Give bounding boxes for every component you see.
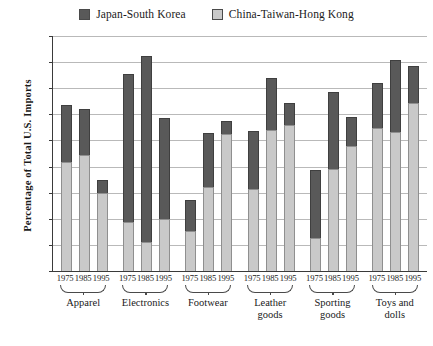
bar-footwear-1975 (185, 200, 196, 271)
segment-japan-south-korea (61, 105, 72, 162)
bar-leather-goods-1975 (248, 131, 259, 271)
segment-japan-south-korea (266, 78, 277, 130)
x-axis-year-labels: 197519851995 (239, 273, 301, 283)
segment-japan-south-korea (248, 131, 259, 189)
x-axis-category-label: Electronics (114, 297, 176, 309)
segment-china-taiwan-hong-kong (141, 242, 152, 272)
segment-china-taiwan-hong-kong (97, 193, 108, 271)
chart-legend: Japan-South Korea China-Taiwan-Hong Kong (0, 6, 433, 22)
bar-apparel-1985 (79, 109, 90, 271)
segment-japan-south-korea (185, 200, 196, 231)
category-brace-icon (185, 285, 231, 293)
x-axis-group-apparel: 197519851995Apparel (52, 273, 114, 343)
bar-toys-and-dolls-1975 (372, 83, 383, 271)
bar-electronics-1995 (159, 118, 170, 271)
segment-japan-south-korea (390, 60, 401, 133)
bar-group-sporting-goods (302, 36, 364, 271)
bar-sporting-goods-1985 (328, 92, 339, 271)
bar-group-electronics (115, 36, 177, 271)
bar-leather-goods-1995 (284, 103, 295, 271)
segment-japan-south-korea (221, 121, 232, 134)
segment-china-taiwan-hong-kong (123, 222, 134, 271)
bar-footwear-1995 (221, 121, 232, 271)
x-axis-tick-1975: 1975 (305, 273, 323, 283)
x-axis-tick-1995: 1995 (341, 273, 359, 283)
x-axis-tick-1995: 1995 (154, 273, 172, 283)
x-axis-group-electronics: 197519851995Electronics (114, 273, 176, 343)
segment-japan-south-korea (408, 66, 419, 104)
segment-china-taiwan-hong-kong (284, 125, 295, 271)
segment-china-taiwan-hong-kong (248, 189, 259, 271)
category-brace-icon (247, 285, 293, 293)
x-axis-group-sporting-goods: 197519851995Sportinggoods (301, 273, 363, 343)
x-axis-tick-1975: 1975 (243, 273, 261, 283)
segment-japan-south-korea (141, 56, 152, 241)
y-axis-title: Percentage of Total U.S. Imports (22, 61, 33, 251)
segment-japan-south-korea (328, 92, 339, 170)
legend-item-japan-south-korea: Japan-South Korea (79, 8, 186, 20)
x-axis-group-toys-and-dolls: 197519851995Toys anddolls (364, 273, 426, 343)
plot-area: 9080706050403020100 (52, 36, 427, 271)
y-axis-tickmark-0 (49, 271, 53, 272)
bar-toys-and-dolls-1985 (390, 60, 401, 272)
segment-china-taiwan-hong-kong (203, 187, 214, 271)
segment-china-taiwan-hong-kong (79, 155, 90, 271)
x-axis-category-label: Leathergoods (239, 297, 301, 321)
segment-japan-south-korea (159, 118, 170, 219)
x-axis-tick-1995: 1995 (92, 273, 110, 283)
bar-group-leather-goods (240, 36, 302, 271)
x-axis-year-labels: 197519851995 (177, 273, 239, 283)
bar-toys-and-dolls-1995 (408, 66, 419, 271)
x-axis-tick-1985: 1985 (261, 273, 279, 283)
x-axis-tick-1985: 1985 (136, 273, 154, 283)
x-axis-category-label: Apparel (52, 297, 114, 309)
segment-china-taiwan-hong-kong (159, 219, 170, 271)
legend-label-japan-south-korea: Japan-South Korea (96, 8, 186, 20)
category-brace-icon (60, 285, 106, 293)
legend-swatch-light-icon (212, 9, 223, 20)
legend-swatch-dark-icon (79, 9, 90, 20)
bar-group-toys-and-dolls (365, 36, 427, 271)
bar-apparel-1995 (97, 180, 108, 271)
stacked-bar-chart: Japan-South Korea China-Taiwan-Hong Kong… (0, 0, 433, 346)
x-axis: 197519851995Apparel197519851995Electroni… (52, 273, 426, 343)
category-brace-icon (372, 285, 418, 293)
segment-china-taiwan-hong-kong (346, 146, 357, 271)
segment-china-taiwan-hong-kong (310, 238, 321, 271)
x-axis-tick-1985: 1985 (74, 273, 92, 283)
x-axis-year-labels: 197519851995 (301, 273, 363, 283)
bar-apparel-1975 (61, 105, 72, 271)
segment-china-taiwan-hong-kong (266, 130, 277, 271)
x-axis-category-label: Footwear (177, 297, 239, 309)
legend-label-china-taiwan-hong-kong: China-Taiwan-Hong Kong (229, 8, 354, 20)
bar-sporting-goods-1975 (310, 170, 321, 271)
x-axis-tick-1985: 1985 (199, 273, 217, 283)
x-axis-tick-1995: 1995 (404, 273, 422, 283)
bar-group-apparel (53, 36, 115, 271)
segment-japan-south-korea (79, 109, 90, 155)
x-axis-tick-1985: 1985 (323, 273, 341, 283)
segment-japan-south-korea (203, 133, 214, 187)
segment-japan-south-korea (310, 170, 321, 237)
x-axis-group-leather-goods: 197519851995Leathergoods (239, 273, 301, 343)
segment-japan-south-korea (284, 103, 295, 125)
segment-china-taiwan-hong-kong (372, 128, 383, 271)
segment-china-taiwan-hong-kong (390, 132, 401, 271)
legend-item-china-taiwan-hong-kong: China-Taiwan-Hong Kong (212, 8, 354, 20)
category-brace-icon (122, 285, 168, 293)
segment-china-taiwan-hong-kong (221, 134, 232, 271)
bar-leather-goods-1985 (266, 78, 277, 271)
x-axis-year-labels: 197519851995 (52, 273, 114, 283)
segment-japan-south-korea (346, 117, 357, 147)
bar-group-footwear (178, 36, 240, 271)
x-axis-year-labels: 197519851995 (364, 273, 426, 283)
bar-footwear-1985 (203, 133, 214, 271)
bar-groups (53, 36, 427, 271)
bar-electronics-1985 (141, 56, 152, 271)
segment-japan-south-korea (97, 180, 108, 193)
category-brace-icon (309, 285, 355, 293)
segment-china-taiwan-hong-kong (185, 231, 196, 271)
segment-china-taiwan-hong-kong (328, 169, 339, 271)
x-axis-tick-1975: 1975 (368, 273, 386, 283)
x-axis-tick-1975: 1975 (56, 273, 74, 283)
